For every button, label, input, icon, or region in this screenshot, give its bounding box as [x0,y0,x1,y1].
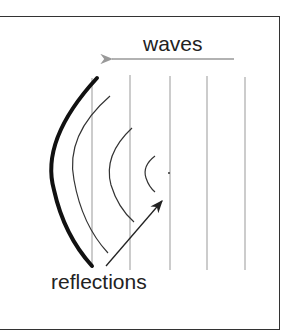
reflections-pointer-arrow [106,201,162,266]
waves-label: waves [143,33,203,54]
reflections-label: reflections [51,271,147,292]
reflection-arcs [73,96,156,253]
reflector-surface [51,78,97,266]
source-point [168,172,170,174]
